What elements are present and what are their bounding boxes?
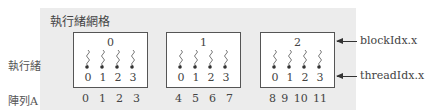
array-element: 8 xyxy=(269,92,276,105)
array-element: 2 xyxy=(116,92,123,105)
thread: 3 xyxy=(313,50,327,84)
array-element: 5 xyxy=(192,92,199,105)
thread-index: 1 xyxy=(100,71,107,84)
thread-arrow xyxy=(337,76,357,77)
thread-icon xyxy=(286,50,294,70)
thread-index: 2 xyxy=(208,71,215,84)
thread: 1 xyxy=(283,50,297,84)
array-element: 9 xyxy=(281,92,288,105)
thread-index: 2 xyxy=(302,71,309,84)
thread: 0 xyxy=(268,50,282,84)
array-element: 10 xyxy=(294,92,308,105)
block-index: 0 xyxy=(74,36,147,49)
thread-block-1: 10123 xyxy=(166,32,241,88)
array-element: 7 xyxy=(226,92,233,105)
thread: 1 xyxy=(96,50,110,84)
thread-index: 3 xyxy=(223,71,230,84)
thread-block-0: 00123 xyxy=(73,32,148,88)
thread: 2 xyxy=(111,50,125,84)
threadidx-annotation: threadIdx.x xyxy=(360,69,424,82)
grid-title: 執行緒網格 xyxy=(50,12,110,29)
array-element: 1 xyxy=(99,92,106,105)
thread: 0 xyxy=(174,50,188,84)
thread-icon xyxy=(114,50,122,70)
thread: 2 xyxy=(298,50,312,84)
thread-icon xyxy=(222,50,230,70)
thread-icon xyxy=(129,50,137,70)
thread-index: 3 xyxy=(130,71,137,84)
thread-index: 1 xyxy=(193,71,200,84)
thread-icon xyxy=(271,50,279,70)
thread-index: 3 xyxy=(317,71,324,84)
thread-icon xyxy=(192,50,200,70)
thread: 0 xyxy=(81,50,95,84)
thread-block-2: 20123 xyxy=(260,32,335,88)
array-element: 0 xyxy=(82,92,89,105)
block-index: 2 xyxy=(261,36,334,49)
array-element: 11 xyxy=(313,92,327,105)
array-row-2: 891011 xyxy=(269,92,327,105)
thread-index: 0 xyxy=(178,71,185,84)
array-element: 6 xyxy=(209,92,216,105)
array-element: 4 xyxy=(175,92,182,105)
array-element: 3 xyxy=(133,92,140,105)
blockidx-annotation: blockIdx.x xyxy=(360,34,417,47)
thread: 1 xyxy=(189,50,203,84)
thread-icon xyxy=(84,50,92,70)
thread: 3 xyxy=(219,50,233,84)
thread: 3 xyxy=(126,50,140,84)
thread-icon xyxy=(301,50,309,70)
thread-icon xyxy=(316,50,324,70)
thread-icon xyxy=(99,50,107,70)
thread-index: 0 xyxy=(272,71,279,84)
array-label: 陣列A xyxy=(8,92,38,108)
thread-index: 1 xyxy=(287,71,294,84)
array-row-0: 0123 xyxy=(82,92,140,105)
thread-index: 2 xyxy=(115,71,122,84)
threads-label: 執行緒 xyxy=(8,57,41,73)
thread-icon xyxy=(177,50,185,70)
thread: 2 xyxy=(204,50,218,84)
array-row-1: 4567 xyxy=(175,92,233,105)
thread-index: 0 xyxy=(85,71,92,84)
block-index: 1 xyxy=(167,36,240,49)
block-arrow xyxy=(337,41,357,42)
thread-icon xyxy=(207,50,215,70)
